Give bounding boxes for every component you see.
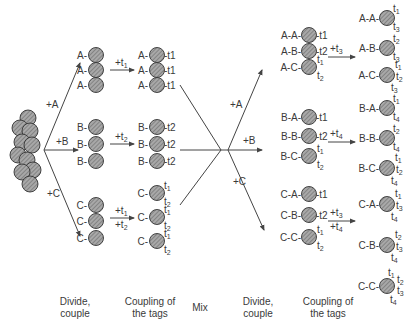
tag-label: -t1 [164,50,176,61]
bead-prefix: B- [77,122,87,133]
tag-label: t2 [317,70,324,82]
tag-label: t1 [393,93,400,105]
bead-prefix: C- [76,200,87,211]
bead-prefix: B- [138,139,148,150]
tag-label: t3 [393,21,400,33]
bead-prefix: A- [138,80,148,91]
step-label-divide-couple-2: Divide, couple [223,296,293,320]
step-label-coupling-tags-1: Coupling of the tags [110,296,190,320]
bead-c [89,198,104,213]
bead-a-a [302,28,317,43]
tag-step-label: +t3 [330,207,343,219]
label-line: the tags [288,308,368,320]
tag-step-label: +t4 [330,221,343,233]
bead-prefix: B-A- [359,103,379,114]
bead-prefix: C- [137,212,148,223]
bead-b-c [302,149,317,164]
tag-step-label: +t1 [115,205,128,217]
bead-prefix: A- [77,65,87,76]
bead-prefix: B- [138,122,148,133]
tagged-bead-b [150,154,165,169]
reagent-label: +C [47,188,60,199]
tag-label: t2 [164,244,171,256]
bead-c-c [302,230,317,245]
label-line: Mix [185,302,215,314]
bead-b-a [302,110,317,125]
step-label-divide-couple-1: Divide, couple [40,296,110,320]
cluster-bead [22,176,38,192]
reagent-label: +B [56,136,69,147]
bead-prefix: A-A- [281,30,301,41]
tag-step-label: +t3 [330,43,343,55]
bead-prefix: C-C- [280,232,301,243]
split-mix-diagram: +A+B+CA-A-A-+t1A--t1A--t1A--t1B-B-B-+t2B… [0,0,409,331]
bead-prefix: C-A- [358,199,379,210]
tag-label: t1 [317,143,324,155]
bead-a [89,78,104,93]
bead-a-c [302,60,317,75]
reagent-label: +A [230,99,243,110]
tag-label: t1 [393,3,400,15]
bead-prefix: C- [76,216,87,227]
reagent-label: +A [46,99,59,110]
tag-label: t4 [391,211,398,223]
tag-label: t2 [393,33,400,45]
label-line: couple [40,308,110,320]
bead-prefix: A-B- [359,43,379,54]
tag-step-label: +t4 [330,128,343,140]
bead-b [89,137,104,152]
step-label-coupling-tags-2: Coupling of the tags [288,296,368,320]
bead-a-b [302,44,317,59]
bead-prefix: B- [77,156,87,167]
bead-prefix: B-C- [358,163,379,174]
bead-prefix: C- [76,233,87,244]
bead-a [89,63,104,78]
tag-label: -t1 [316,189,328,200]
mix-line [180,150,221,205]
bead-prefix: C-A- [280,189,301,200]
bead-c [89,231,104,246]
bead-prefix: B- [77,139,87,150]
bead-prefix: A- [77,80,87,91]
label-line: couple [223,308,293,320]
bead-b [89,120,104,135]
final-bead-b-c [380,161,395,176]
tag-label: -t2 [316,131,328,142]
tag-label: t2 [393,123,400,135]
tagged-bead-c [150,210,165,225]
tagged-bead-a [150,48,165,63]
tagged-bead-c [150,234,165,249]
label-line: Divide, [223,296,293,308]
bead-c-b [302,208,317,223]
bead-prefix: A-B- [281,46,301,57]
bead-prefix: A-A- [359,13,379,24]
bead-prefix: A- [138,65,148,76]
label-line: Divide, [40,296,110,308]
final-bead-c-b [380,238,395,253]
label-line: Coupling of [110,296,190,308]
cluster-bead [24,137,40,153]
tag-label: -t1 [164,80,176,91]
tag-label: t1 [395,152,402,164]
tag-step-label: +t2 [115,131,128,143]
bead-prefix: C- [137,236,148,247]
bead-b [89,154,104,169]
tag-label: -t2 [164,156,176,167]
tag-step-label: +t1 [115,57,128,69]
step-label-mix: Mix [185,302,215,314]
bead-prefix: B-B- [281,131,301,142]
bead-prefix: C- [137,188,148,199]
tag-label: t3 [397,285,404,297]
tag-label: t3 [396,200,403,212]
tag-label: t4 [391,175,398,187]
bead-prefix: A- [77,50,87,61]
tag-label: t1 [317,224,324,236]
tagged-bead-a [150,63,165,78]
bead-b-b [302,129,317,144]
tag-label: t1 [388,267,395,279]
diagram-canvas: +A+B+CA-A-A-+t1A--t1A--t1A--t1B-B-B-+t2B… [0,0,409,331]
final-bead-c-c [380,279,395,294]
tag-label: -t2 [164,139,176,150]
bead-c-a [302,187,317,202]
bead-prefix: C-B- [358,240,379,251]
